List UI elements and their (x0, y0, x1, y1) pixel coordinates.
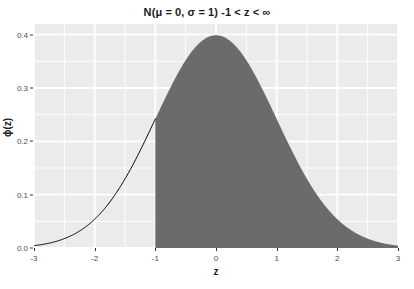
x-tick-label-0: -3 (30, 254, 37, 263)
y-tick-label-3: 0.3 (2, 84, 28, 93)
chart-container: N(μ = 0, σ = 1) -1 < z < ∞ 0.00.10.20.30… (0, 0, 414, 289)
x-tick-mark-2 (155, 248, 156, 251)
x-tick-label-2: -1 (152, 254, 159, 263)
y-axis-title: ϕ(z) (2, 103, 13, 153)
y-tick-label-1: 0.1 (2, 190, 28, 199)
x-tick-mark-5 (337, 248, 338, 251)
x-tick-mark-6 (398, 248, 399, 251)
chart-title: N(μ = 0, σ = 1) -1 < z < ∞ (0, 6, 414, 18)
x-tick-label-5: 2 (335, 254, 339, 263)
y-tick-mark-1 (30, 194, 33, 195)
x-tick-label-1: -2 (91, 254, 98, 263)
x-tick-mark-4 (277, 248, 278, 251)
y-tick-mark-3 (30, 88, 33, 89)
x-tick-mark-1 (95, 248, 96, 251)
x-axis-ticks: -3-2-10123 (34, 248, 398, 266)
x-tick-label-6: 3 (396, 254, 400, 263)
x-tick-mark-0 (34, 248, 35, 251)
y-tick-mark-4 (30, 34, 33, 35)
y-tick-mark-0 (30, 248, 33, 249)
x-axis-title: z (34, 266, 398, 277)
x-tick-label-4: 1 (274, 254, 278, 263)
y-tick-mark-2 (30, 141, 33, 142)
y-tick-label-0: 0.0 (2, 244, 28, 253)
x-tick-mark-3 (216, 248, 217, 251)
density-plot-svg (34, 24, 398, 248)
y-tick-label-4: 0.4 (2, 30, 28, 39)
x-tick-label-3: 0 (214, 254, 218, 263)
plot-panel (34, 24, 398, 248)
